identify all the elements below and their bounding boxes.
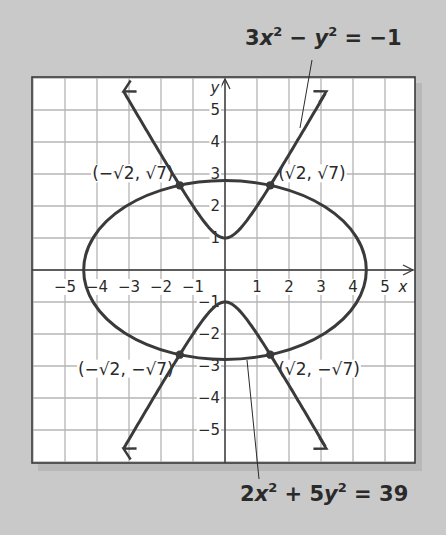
x-tick-label: −5 — [54, 278, 76, 296]
coef: 2 — [240, 482, 255, 506]
y-tick-label: 4 — [210, 133, 220, 151]
intersection-point — [176, 350, 184, 358]
intersection-point — [266, 181, 274, 189]
x-tick-label: −2 — [150, 278, 172, 296]
point-label: (−√2, √7) — [92, 163, 174, 183]
exp: 2 — [268, 480, 277, 495]
intersection-point — [266, 350, 274, 358]
exp: 2 — [328, 24, 337, 39]
var-y: y — [324, 482, 338, 506]
coef: 3 — [245, 26, 260, 50]
graph-figure: −5−4−3−2−112345−5−4−3−2−112345xy(−√2, √7… — [0, 0, 446, 535]
point-label: (−√2, −√7) — [78, 359, 174, 379]
rhs: = 39 — [347, 482, 408, 506]
y-tick-label: −5 — [198, 421, 220, 439]
y-tick-label: 2 — [210, 197, 220, 215]
x-tick-label: 3 — [316, 278, 326, 296]
ellipse-equation-label: 2x2 + 5y2 = 39 — [240, 482, 408, 506]
y-tick-label: 5 — [210, 101, 220, 119]
exp: 2 — [273, 24, 282, 39]
intersection-point — [176, 181, 184, 189]
y-tick-label: −4 — [198, 389, 220, 407]
var-y: y — [314, 26, 328, 50]
var-x: x — [260, 26, 274, 50]
x-tick-label: 5 — [380, 278, 390, 296]
operator: + 5 — [277, 482, 324, 506]
y-tick-label: −2 — [198, 325, 220, 343]
x-tick-label: 1 — [252, 278, 262, 296]
operator: − — [282, 26, 314, 50]
y-axis-label: y — [210, 79, 221, 97]
y-tick-label: −1 — [198, 293, 220, 311]
point-label: (√2, −√7) — [278, 359, 360, 379]
exp: 2 — [338, 480, 347, 495]
var-x: x — [255, 482, 269, 506]
x-axis-label: x — [398, 278, 408, 296]
rhs: = −1 — [337, 26, 401, 50]
x-tick-label: 4 — [348, 278, 358, 296]
x-tick-label: 2 — [284, 278, 294, 296]
point-label: (√2, √7) — [278, 163, 345, 183]
hyperbola-equation-label: 3x2 − y2 = −1 — [245, 26, 402, 50]
x-tick-label: −3 — [118, 278, 140, 296]
